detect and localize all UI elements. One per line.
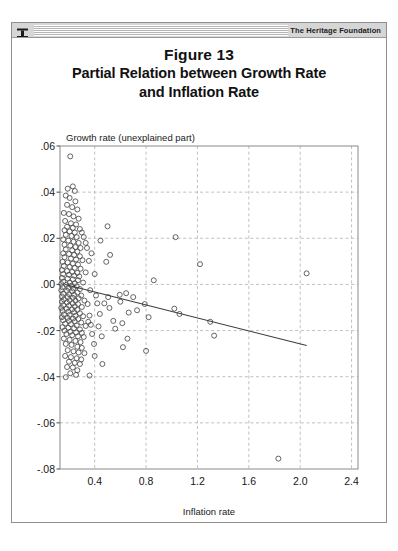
data-point bbox=[108, 252, 113, 257]
data-point bbox=[135, 308, 140, 313]
titlebar-label: The Heritage Foundation bbox=[288, 24, 383, 37]
data-point bbox=[70, 248, 75, 253]
y-tick-label: -.02 bbox=[37, 325, 55, 337]
data-point bbox=[65, 260, 70, 265]
data-point bbox=[70, 333, 75, 338]
data-point bbox=[85, 302, 90, 307]
pushpin-icon[interactable] bbox=[16, 25, 29, 36]
data-point bbox=[71, 316, 76, 321]
data-point bbox=[74, 222, 79, 227]
data-point bbox=[64, 306, 69, 311]
data-point bbox=[86, 258, 91, 263]
data-point bbox=[75, 302, 80, 307]
data-point bbox=[72, 230, 77, 235]
data-point bbox=[74, 284, 79, 289]
data-point bbox=[72, 292, 77, 297]
data-point bbox=[61, 312, 66, 317]
data-point bbox=[76, 350, 81, 355]
data-point bbox=[77, 362, 82, 367]
data-point bbox=[62, 255, 67, 260]
data-point bbox=[61, 272, 66, 277]
data-point bbox=[83, 323, 88, 328]
data-point bbox=[70, 261, 75, 266]
x-tick-label: 0.8 bbox=[139, 475, 154, 487]
data-point bbox=[59, 315, 64, 320]
data-point bbox=[61, 318, 66, 323]
data-point bbox=[59, 268, 64, 273]
data-point bbox=[70, 307, 75, 312]
data-point bbox=[66, 309, 71, 314]
data-point bbox=[73, 298, 78, 303]
data-point bbox=[79, 357, 84, 362]
data-point bbox=[61, 237, 66, 242]
window-titlebar[interactable]: The Heritage Foundation bbox=[12, 23, 386, 38]
data-point bbox=[72, 326, 77, 331]
data-point bbox=[70, 295, 75, 300]
data-point bbox=[65, 276, 70, 281]
data-point bbox=[68, 256, 73, 261]
data-point bbox=[72, 273, 77, 278]
data-point bbox=[75, 278, 80, 283]
figure-window: The Heritage Foundation Figure 13 Partia… bbox=[11, 22, 387, 523]
data-point bbox=[72, 310, 77, 315]
y-tick-label: .04 bbox=[40, 186, 55, 198]
data-point bbox=[74, 356, 79, 361]
data-point bbox=[70, 269, 75, 274]
data-point bbox=[77, 274, 82, 279]
data-point bbox=[76, 240, 81, 245]
data-point bbox=[87, 373, 92, 378]
data-point bbox=[65, 224, 70, 229]
data-point bbox=[99, 334, 104, 339]
data-point bbox=[59, 294, 64, 299]
data-point bbox=[142, 302, 147, 307]
regression-line bbox=[65, 284, 306, 345]
data-point bbox=[126, 310, 131, 315]
data-point bbox=[63, 232, 68, 237]
data-point bbox=[65, 365, 70, 370]
data-point bbox=[79, 305, 84, 310]
data-point bbox=[65, 300, 70, 305]
data-point bbox=[66, 212, 71, 217]
data-point bbox=[96, 324, 101, 329]
data-point bbox=[107, 305, 112, 310]
data-point bbox=[65, 348, 70, 353]
data-point bbox=[72, 360, 77, 365]
data-point bbox=[105, 224, 110, 229]
data-point bbox=[84, 245, 89, 250]
data-point bbox=[74, 323, 79, 328]
data-point bbox=[61, 291, 66, 296]
data-point bbox=[75, 249, 80, 254]
data-point bbox=[65, 186, 70, 191]
data-point bbox=[71, 214, 76, 219]
data-point bbox=[95, 301, 100, 306]
data-point bbox=[67, 264, 72, 269]
data-point bbox=[68, 329, 73, 334]
data-point bbox=[111, 318, 116, 323]
data-point bbox=[63, 353, 68, 358]
data-point bbox=[79, 320, 84, 325]
data-point bbox=[212, 333, 217, 338]
plot-frame bbox=[60, 146, 358, 469]
data-point bbox=[62, 242, 67, 247]
data-point bbox=[146, 315, 151, 320]
data-point bbox=[65, 269, 70, 274]
y-tick-label: -.04 bbox=[37, 371, 55, 383]
data-point bbox=[66, 238, 71, 243]
data-point bbox=[66, 292, 71, 297]
data-point bbox=[66, 359, 71, 364]
data-point bbox=[102, 301, 107, 306]
data-point bbox=[67, 229, 72, 234]
data-point bbox=[61, 263, 66, 268]
data-point bbox=[104, 259, 109, 264]
data-point bbox=[60, 308, 65, 313]
data-point bbox=[77, 311, 82, 316]
data-point bbox=[72, 319, 77, 324]
data-point bbox=[72, 304, 77, 309]
data-point bbox=[81, 235, 86, 240]
data-point bbox=[77, 327, 82, 332]
x-tick-label: 2.4 bbox=[344, 475, 359, 487]
data-point bbox=[63, 193, 68, 198]
data-point bbox=[66, 272, 71, 277]
data-point bbox=[65, 288, 70, 293]
data-point bbox=[92, 353, 97, 358]
